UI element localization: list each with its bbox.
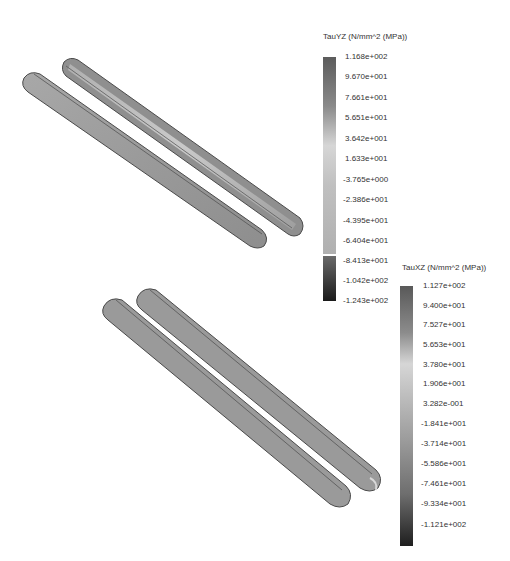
tauyz-tick-label: 7.661e+001 (345, 93, 388, 103)
tauyz-tick-label: 1.633e+001 (345, 154, 388, 164)
tauyz-tick-label: 3.642e+001 (345, 134, 388, 144)
tauyz-tick-label: -2.386e+001 (343, 195, 388, 205)
key-bar-top-right (62, 58, 303, 236)
tauxz-tick-label: -1.841e+001 (421, 419, 466, 429)
tauyz-tick-label: 9.670e+001 (345, 72, 388, 82)
key-bar-top-left (23, 73, 267, 248)
tauxz-tick-label: -7.461e+001 (421, 479, 466, 489)
tauxz-tick-label: -5.586e+001 (421, 459, 466, 469)
tauyz-tick-label: -6.404e+001 (343, 236, 388, 246)
tauyz-tick-label: 5.651e+001 (345, 113, 388, 123)
tauxz-tick-label: -9.334e+001 (421, 499, 466, 509)
tauyz-colorbar (323, 57, 336, 301)
tauyz-legend-title: TauYZ (N/mm^2 (MPa)) (323, 32, 407, 41)
tauxz-colorbar (400, 286, 413, 546)
tauyz-tick-label: -8.413e+001 (343, 256, 388, 266)
tauxz-tick-label: 7.527e+001 (423, 320, 466, 330)
tauxz-tick-label: 3.282e-001 (423, 399, 463, 409)
tauxz-tick-label: 1.906e+001 (423, 379, 466, 389)
tauyz-tick-label: -4.395e+001 (343, 216, 388, 226)
key-bar-bottom-right (137, 289, 381, 491)
fea-results-viewport: TauYZ (N/mm^2 (MPa)) 1.168e+002 9.670e+0… (0, 0, 510, 561)
tauyz-tick-label: -3.765e+000 (343, 175, 388, 185)
tauxz-tick-label: -1.121e+002 (421, 520, 466, 530)
tauyz-tick-label: 1.168e+002 (345, 52, 388, 62)
tauxz-part-group (103, 289, 381, 507)
tauyz-tick-label: -1.042e+002 (343, 276, 388, 286)
tauxz-tick-label: 1.127e+002 (423, 281, 466, 291)
tauyz-part-group (23, 58, 303, 248)
tauxz-tick-label: 5.653e+001 (423, 340, 466, 350)
tauxz-tick-label: 9.400e+001 (423, 301, 466, 311)
tauxz-tick-label: 3.780e+001 (423, 360, 466, 370)
tauyz-tick-label: -1.243e+002 (343, 296, 388, 306)
key-bar-bottom-left (103, 299, 351, 507)
tauxz-legend-title: TauXZ (N/mm^2 (MPa)) (402, 263, 486, 272)
tauxz-tick-label: -3.714e+001 (421, 439, 466, 449)
